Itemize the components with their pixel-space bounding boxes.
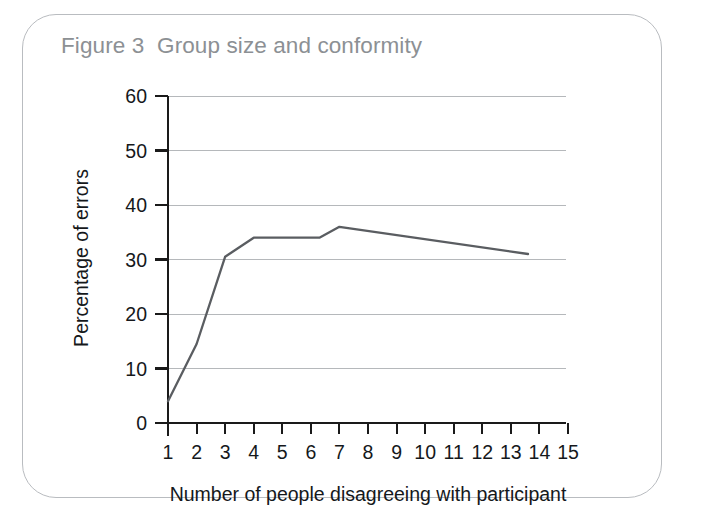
x-tick-label: 11	[444, 441, 464, 463]
x-tick-label: 2	[191, 441, 202, 463]
y-tick-label: 10	[125, 358, 147, 380]
chart-plot: 0102030405060 123456789101112131415 Numb…	[0, 0, 706, 530]
x-axis-title: Number of people disagreeing with partic…	[170, 483, 567, 505]
x-tick-label: 15	[557, 441, 579, 463]
x-tick-label: 10	[414, 441, 436, 463]
y-tick-label: 40	[125, 194, 147, 216]
y-tick-label: 60	[125, 85, 147, 107]
x-tick-label: 3	[220, 441, 231, 463]
y-tick-label: 30	[125, 249, 147, 271]
x-tick-label-group: 123456789101112131415	[163, 441, 579, 463]
y-tick-label: 20	[125, 303, 147, 325]
x-tick-label: 13	[500, 441, 522, 463]
x-tick-label: 8	[363, 441, 374, 463]
y-tick-group	[155, 96, 168, 423]
x-tick-group	[168, 416, 568, 436]
y-axis-title: Percentage of errors	[70, 169, 92, 347]
x-tick-label: 5	[277, 441, 288, 463]
x-tick-label: 7	[334, 441, 345, 463]
x-tick-label: 6	[305, 441, 316, 463]
x-tick-label: 9	[391, 441, 402, 463]
x-tick-label: 4	[248, 441, 259, 463]
x-tick-label: 14	[529, 441, 551, 463]
y-tick-label: 50	[125, 140, 147, 162]
chart-svg: 0102030405060 123456789101112131415 Numb…	[0, 0, 706, 530]
x-tick-label: 1	[163, 441, 174, 463]
x-tick-label: 12	[471, 441, 493, 463]
y-tick-label: 0	[136, 412, 147, 434]
y-tick-label-group: 0102030405060	[125, 85, 147, 434]
gridlines-group	[168, 96, 566, 369]
